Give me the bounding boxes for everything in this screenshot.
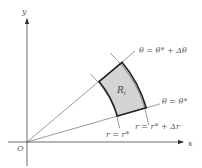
region-label-subscript: i [124,89,126,96]
arc-label-r-star-plus-dr: r = r* + Δr [135,122,181,131]
x-axis-label: x [188,139,193,148]
origin-label: O [17,144,24,153]
arc-label-r-star: r = r* [106,130,129,139]
ray-label-theta-star: θ = θ* [162,97,187,106]
y-axis-label: y [21,7,27,16]
ray-label-theta-plus-dtheta: θ = θ* + Δθ [139,46,187,55]
polar-region-diagram: y x O θ = θ* + Δθ θ = θ* r = r* r = r* +… [0,0,202,168]
